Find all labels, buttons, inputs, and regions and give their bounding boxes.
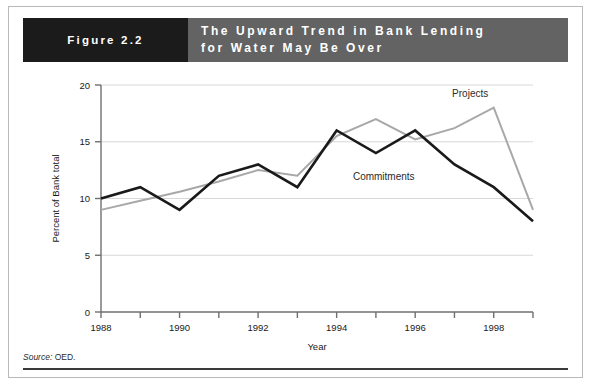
figure-banner: Figure 2.2 The Upward Trend in Bank Lend… xyxy=(23,18,568,62)
figure-title-line-1: The Upward Trend in Bank Lending xyxy=(201,23,568,40)
x-axis-title: Year xyxy=(307,341,326,350)
line-chart: 05101520198819901992199419961998YearPerc… xyxy=(23,70,568,350)
series-label-projects: Projects xyxy=(452,88,488,99)
series-line-commitments xyxy=(101,130,533,221)
figure-page: Figure 2.2 The Upward Trend in Bank Lend… xyxy=(0,0,591,390)
footer-divider xyxy=(23,368,568,370)
x-tick-label-1994: 1994 xyxy=(326,322,347,333)
figure-number-label: Figure 2.2 xyxy=(67,34,143,46)
x-tick-label-1990: 1990 xyxy=(169,322,190,333)
y-tick-label-5: 5 xyxy=(85,250,90,261)
source-label: Source: xyxy=(23,352,52,362)
y-tick-label-0: 0 xyxy=(85,307,90,318)
source-value: OED. xyxy=(55,352,76,362)
y-tick-label-20: 20 xyxy=(79,80,90,91)
y-tick-label-10: 10 xyxy=(79,193,90,204)
figure-number-block: Figure 2.2 xyxy=(23,18,188,62)
x-tick-label-1998: 1998 xyxy=(483,322,504,333)
x-tick-label-1992: 1992 xyxy=(248,322,269,333)
chart-container: 05101520198819901992199419961998YearPerc… xyxy=(23,70,568,350)
x-tick-label-1988: 1988 xyxy=(90,322,111,333)
x-tick-label-1996: 1996 xyxy=(405,322,426,333)
series-label-commitments: Commitments xyxy=(353,171,415,182)
y-axis-title: Percent of Bank total xyxy=(50,154,61,242)
figure-title-block: The Upward Trend in Bank Lending for Wat… xyxy=(188,18,568,62)
figure-title-line-2: for Water May Be Over xyxy=(201,40,568,57)
source-note: Source: OED. xyxy=(23,352,568,362)
y-tick-label-15: 15 xyxy=(79,136,90,147)
